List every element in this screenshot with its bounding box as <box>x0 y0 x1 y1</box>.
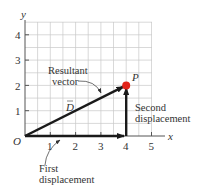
x-tick-label: 5 <box>149 140 155 152</box>
y-tick-label: 3 <box>15 54 21 66</box>
first-displacement-line1: First <box>39 163 58 174</box>
origin-label: O <box>13 135 21 147</box>
second-displacement-line2: displacement <box>135 113 190 124</box>
resultant-pointer-arrow <box>78 81 101 93</box>
vector-addition-diagram: x y O 1 2 3 4 5 1 2 3 4 P D Resultant ve… <box>0 0 198 185</box>
first-displacement-line2: displacement <box>39 174 94 185</box>
x-tick-label: 2 <box>73 140 79 152</box>
resultant-vector <box>25 87 124 136</box>
x-tick-label: 4 <box>123 140 129 152</box>
vector-d-symbol: D <box>65 101 74 113</box>
x-tick-labels: 1 2 3 4 5 <box>47 140 155 152</box>
y-axis-label: y <box>20 8 26 20</box>
resultant-label-line1: Resultant <box>48 65 88 76</box>
y-tick-labels: 1 2 3 4 <box>15 29 21 118</box>
x-axis-label: x <box>167 130 173 142</box>
vector-d-label: D <box>65 101 74 113</box>
point-p-label: P <box>131 71 139 83</box>
resultant-label-line2: vector <box>52 76 79 87</box>
point-p <box>122 81 130 89</box>
y-tick-label: 2 <box>15 80 21 92</box>
second-displacement-line1: Second <box>135 102 167 113</box>
x-tick-label: 3 <box>98 140 104 152</box>
y-tick-label: 1 <box>15 105 21 117</box>
y-tick-label: 4 <box>15 29 21 41</box>
